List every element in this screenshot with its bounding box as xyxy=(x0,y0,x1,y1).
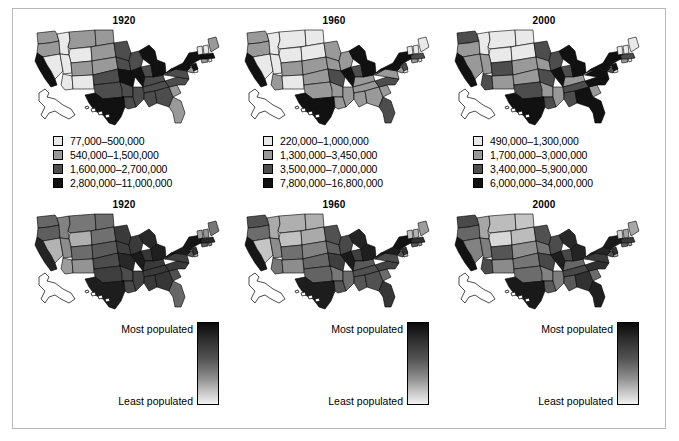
state-wy xyxy=(489,47,512,63)
legend-classed-1960: 220,000–1,000,000 1,300,000–3,450,000 3,… xyxy=(263,134,383,190)
state-nm xyxy=(282,75,304,89)
state-fl xyxy=(589,281,605,307)
state-nh xyxy=(623,229,629,238)
legend-label: 490,000–1,300,000 xyxy=(490,135,579,147)
gradient-label-most: Most populated xyxy=(121,323,193,335)
legend-swatch xyxy=(473,164,483,174)
state-az xyxy=(61,258,73,274)
gradient-label-most: Most populated xyxy=(541,323,613,335)
legend-label: 6,000,000–34,000,000 xyxy=(490,177,593,189)
panel-title: 1920 xyxy=(25,15,223,26)
us-map-svg xyxy=(445,27,643,131)
legend-row: 2,800,000–11,000,000 xyxy=(53,176,172,189)
state-vt xyxy=(407,46,413,55)
legend-swatch xyxy=(263,150,273,160)
state-co xyxy=(281,245,303,260)
legend-swatch xyxy=(263,136,273,146)
map-continuous-1920 xyxy=(25,211,223,315)
state-nm xyxy=(282,259,304,273)
state-az xyxy=(271,74,283,90)
figure-frame: 1920 77,000–500,000 540,000–1,500,000 1,… xyxy=(12,8,666,429)
state-wy xyxy=(279,231,302,247)
state-ak xyxy=(39,273,75,303)
legend-row: 77,000–500,000 xyxy=(53,134,172,147)
legend-swatch xyxy=(53,136,63,146)
legend-row: 540,000–1,500,000 xyxy=(53,148,172,161)
legend-row: 1,700,000–3,000,000 xyxy=(473,148,593,161)
state-vt xyxy=(617,230,623,239)
state-ak xyxy=(459,273,495,303)
legend-label: 1,700,000–3,000,000 xyxy=(490,149,587,161)
state-nh xyxy=(203,45,209,54)
state-al xyxy=(354,275,367,291)
legend-swatch xyxy=(473,150,483,160)
us-map-svg xyxy=(25,211,223,315)
state-nm xyxy=(72,259,94,273)
state-az xyxy=(271,258,283,274)
state-az xyxy=(61,74,73,90)
legend-row: 1,300,000–3,450,000 xyxy=(263,148,383,161)
panel-title: 1920 xyxy=(25,199,223,210)
state-me xyxy=(418,37,429,52)
panel-top-1920: 1920 77,000–500,000 540,000–1,500,000 1,… xyxy=(25,15,223,190)
gradient-legend-1920: Most populated Least populated xyxy=(83,325,223,415)
legend-row: 3,500,000–7,000,000 xyxy=(263,162,383,175)
legend-swatch xyxy=(473,136,483,146)
legend-label: 3,400,000–5,900,000 xyxy=(490,163,587,175)
state-co xyxy=(281,61,303,76)
state-me xyxy=(628,37,639,52)
state-fl xyxy=(589,97,605,123)
state-az xyxy=(481,258,493,274)
state-ak xyxy=(249,89,285,119)
gradient-legend-2000: Most populated Least populated xyxy=(503,325,643,415)
gradient-label-least: Least populated xyxy=(118,395,193,407)
legend-classed-1920: 77,000–500,000 540,000–1,500,000 1,600,0… xyxy=(53,134,172,190)
map-classed-1920 xyxy=(25,27,223,131)
state-wy xyxy=(279,47,302,63)
legend-row: 490,000–1,300,000 xyxy=(473,134,593,147)
state-az xyxy=(481,74,493,90)
us-map-svg xyxy=(235,211,433,315)
state-mt xyxy=(488,30,516,49)
state-wy xyxy=(69,47,92,63)
state-mt xyxy=(488,214,516,233)
state-mt xyxy=(278,30,306,49)
state-ak xyxy=(459,89,495,119)
panel-bottom-1920: 1920 Most populated Least populated xyxy=(25,199,223,424)
state-al xyxy=(144,275,157,291)
gradient-bar xyxy=(617,322,639,405)
panel-title: 2000 xyxy=(445,15,643,26)
state-fl xyxy=(379,97,395,123)
legend-row: 3,400,000–5,900,000 xyxy=(473,162,593,175)
map-continuous-2000 xyxy=(445,211,643,315)
state-vt xyxy=(197,46,203,55)
panel-title: 1960 xyxy=(235,199,433,210)
legend-label: 2,800,000–11,000,000 xyxy=(70,177,172,189)
legend-classed-2000: 490,000–1,300,000 1,700,000–3,000,000 3,… xyxy=(473,134,593,190)
legend-swatch xyxy=(53,178,63,188)
state-mt xyxy=(278,214,306,233)
state-co xyxy=(491,245,513,260)
state-co xyxy=(71,61,93,76)
state-me xyxy=(418,221,429,236)
state-nh xyxy=(623,45,629,54)
state-nh xyxy=(413,229,419,238)
state-wy xyxy=(69,231,92,247)
map-classed-2000 xyxy=(445,27,643,131)
panel-top-1960: 1960 220,000–1,000,000 1,300,000–3,450,0… xyxy=(235,15,433,190)
state-co xyxy=(71,245,93,260)
state-al xyxy=(354,91,367,107)
state-me xyxy=(208,221,219,236)
panel-title: 2000 xyxy=(445,199,643,210)
state-vt xyxy=(197,230,203,239)
state-me xyxy=(628,221,639,236)
panel-bottom-2000: 2000 Most populated Least populated xyxy=(445,199,643,424)
legend-row: 220,000–1,000,000 xyxy=(263,134,383,147)
legend-label: 3,500,000–7,000,000 xyxy=(280,163,377,175)
legend-label: 1,300,000–3,450,000 xyxy=(280,149,377,161)
state-al xyxy=(564,275,577,291)
state-fl xyxy=(379,281,395,307)
legend-label: 540,000–1,500,000 xyxy=(70,149,159,161)
gradient-bar xyxy=(197,322,219,405)
us-map-svg xyxy=(235,27,433,131)
